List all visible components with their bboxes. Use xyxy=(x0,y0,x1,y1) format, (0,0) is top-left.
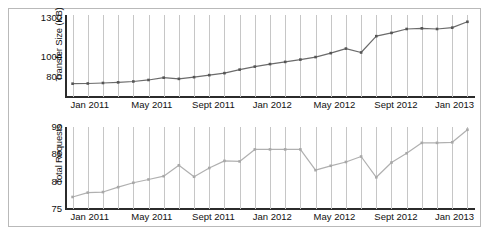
data-point-marker xyxy=(299,148,302,151)
x-tick-label: Jan 2013 xyxy=(435,100,474,110)
data-point-marker xyxy=(162,175,165,178)
data-point-marker xyxy=(269,148,272,151)
data-point-marker xyxy=(345,47,348,50)
data-point-marker xyxy=(345,161,348,164)
y-tick-label: 90 xyxy=(51,122,62,132)
data-point-marker xyxy=(421,27,424,30)
data-point-marker xyxy=(193,175,196,178)
data-point-marker xyxy=(178,164,181,167)
data-point-marker xyxy=(223,160,226,163)
data-point-marker xyxy=(314,56,317,59)
data-point-marker xyxy=(117,186,120,189)
plot-area-total-requests: 75808590 Jan 2011May 2011Sept 2011Jan 20… xyxy=(65,127,475,209)
data-point-marker xyxy=(71,82,74,85)
data-point-marker xyxy=(329,165,332,168)
series-total-requests xyxy=(65,127,475,209)
plot-area-transfer-size: 80010001300 Jan 2011May 2011Sept 2011Jan… xyxy=(65,15,475,97)
x-tick-label: Sept 2012 xyxy=(374,212,417,222)
data-point-marker xyxy=(405,28,408,31)
data-point-marker xyxy=(375,176,378,179)
data-point-marker xyxy=(390,161,393,164)
data-point-marker xyxy=(162,76,165,79)
data-point-marker xyxy=(451,141,454,144)
y-tick-label: 1300 xyxy=(41,13,62,23)
data-point-marker xyxy=(390,32,393,35)
data-point-marker xyxy=(208,74,211,77)
data-point-marker xyxy=(86,82,89,85)
data-point-marker xyxy=(147,178,150,181)
data-point-marker xyxy=(314,169,317,172)
x-tick-label: Jan 2011 xyxy=(71,100,109,110)
y-tick-label: 800 xyxy=(46,72,62,82)
data-point-marker xyxy=(436,142,439,145)
data-point-marker xyxy=(86,191,89,194)
data-point-marker xyxy=(147,79,150,82)
data-point-marker xyxy=(466,128,469,131)
data-point-marker xyxy=(466,20,469,23)
data-point-marker xyxy=(132,80,135,83)
data-point-marker xyxy=(299,58,302,61)
chart-panel-transfer-size: Transfer Size (KB) 80010001300 Jan 2011M… xyxy=(9,9,482,117)
series-line xyxy=(73,22,468,84)
data-point-marker xyxy=(193,76,196,79)
data-point-marker xyxy=(208,167,211,170)
x-tick-label: Jan 2012 xyxy=(253,100,292,110)
data-point-marker xyxy=(360,155,363,158)
x-tick-label: Sept 2011 xyxy=(192,212,235,222)
y-tick-label: 80 xyxy=(51,177,62,187)
data-point-marker xyxy=(117,81,120,84)
data-point-marker xyxy=(102,82,105,85)
data-point-marker xyxy=(284,148,287,151)
x-tick-label: Sept 2012 xyxy=(374,100,417,110)
x-tick-label: May 2012 xyxy=(314,212,356,222)
data-point-marker xyxy=(451,26,454,29)
data-point-marker xyxy=(254,65,257,68)
y-tick-label: 85 xyxy=(51,150,62,160)
x-tick-label: Jan 2011 xyxy=(71,212,109,222)
data-point-marker xyxy=(223,72,226,75)
data-point-marker xyxy=(269,63,272,66)
chart-panel-total-requests: Total Requests 75808590 Jan 2011May 2011… xyxy=(9,119,482,228)
x-tick-label: Jan 2013 xyxy=(435,212,474,222)
data-point-marker xyxy=(360,51,363,54)
x-tick-label: May 2011 xyxy=(131,212,172,222)
x-tick-label: May 2011 xyxy=(131,100,172,110)
data-point-marker xyxy=(254,148,257,151)
data-point-marker xyxy=(132,181,135,184)
x-tick-label: Jan 2012 xyxy=(253,212,292,222)
data-point-marker xyxy=(284,61,287,64)
data-point-marker xyxy=(238,68,241,71)
series-line xyxy=(73,130,468,197)
data-point-marker xyxy=(329,52,332,55)
y-tick-label: 75 xyxy=(51,204,62,214)
y-tick-label: 1000 xyxy=(41,52,62,62)
data-point-marker xyxy=(71,196,74,199)
data-point-marker xyxy=(178,78,181,81)
data-point-marker xyxy=(436,28,439,31)
x-tick-label: May 2012 xyxy=(314,100,356,110)
data-point-marker xyxy=(375,35,378,38)
series-transfer-size xyxy=(65,15,475,97)
figure-container: Transfer Size (KB) 80010001300 Jan 2011M… xyxy=(0,0,497,235)
data-point-marker xyxy=(405,152,408,155)
x-tick-label: Sept 2011 xyxy=(192,100,235,110)
data-point-marker xyxy=(421,142,424,145)
data-point-marker xyxy=(102,191,105,194)
figure-border: Transfer Size (KB) 80010001300 Jan 2011M… xyxy=(8,8,481,227)
data-point-marker xyxy=(238,160,241,163)
